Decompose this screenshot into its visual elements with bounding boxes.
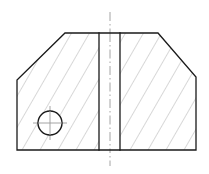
sectional-view-drawing	[0, 0, 209, 174]
drawing-canvas	[0, 0, 209, 174]
central-slot-fill	[99, 33, 120, 150]
